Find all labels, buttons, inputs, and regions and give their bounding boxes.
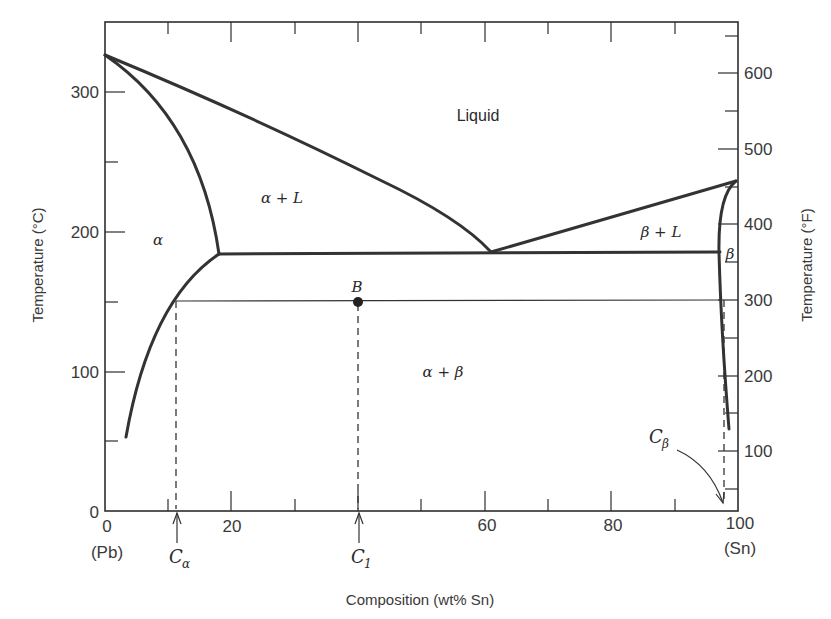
x-label-20: 20	[223, 517, 242, 536]
point-b-marker	[353, 297, 363, 307]
phase-boundaries	[105, 55, 736, 437]
point-b-label: B	[350, 278, 362, 296]
liquidus-left	[105, 55, 491, 252]
tie-line	[176, 300, 722, 301]
region-beta-plus-liquid: β + L	[640, 223, 682, 241]
x-label-60: 60	[478, 516, 497, 535]
c-alpha-subscript: α	[182, 557, 190, 571]
yf-label-300: 300	[744, 291, 772, 310]
solvus-alpha	[126, 254, 219, 437]
yf-label-100: 100	[744, 442, 772, 461]
liquidus-right	[491, 181, 736, 252]
yf-label-200: 200	[744, 367, 772, 386]
yf-label-600: 600	[744, 64, 772, 83]
x-label-100: 100	[726, 514, 754, 533]
x-end-sn: (Sn)	[724, 539, 756, 558]
c1-label: C	[351, 546, 365, 567]
x-end-pb: (Pb)	[91, 543, 123, 562]
y-label-200: 200	[71, 223, 99, 242]
region-alpha: α	[153, 231, 163, 249]
solvus-beta	[719, 181, 736, 429]
y-axis-right-title: Temperature (°F)	[798, 208, 815, 322]
region-alpha-plus-liquid: α + L	[261, 189, 303, 207]
eutectic-isotherm	[219, 252, 720, 254]
y-label-300: 300	[71, 83, 99, 102]
phase-diagram: 0 100 200 300 600 500 400 300 200 100 0 …	[0, 0, 831, 619]
bottom-ticks	[168, 491, 675, 511]
region-beta: β	[725, 245, 735, 263]
region-liquid: Liquid	[457, 107, 500, 124]
top-ticks	[168, 22, 675, 42]
left-ticks	[105, 92, 125, 441]
yf-label-400: 400	[744, 215, 772, 234]
composition-arrows	[173, 450, 724, 543]
y-label-0: 0	[90, 503, 99, 522]
c1-subscript: 1	[364, 557, 372, 571]
y-label-100: 100	[71, 363, 99, 382]
c-beta-subscript: β	[661, 437, 669, 451]
dashed-drops	[176, 300, 724, 509]
x-label-80: 80	[604, 516, 623, 535]
c-alpha-label: C	[169, 546, 183, 567]
x-axis-title: Composition (wt% Sn)	[346, 591, 494, 608]
region-alpha-plus-beta: α + β	[423, 363, 464, 381]
x-label-0: 0	[102, 517, 111, 536]
yf-label-500: 500	[744, 140, 772, 159]
y-axis-left-title: Temperature (°C)	[29, 207, 46, 322]
solidus-alpha	[105, 55, 219, 254]
c-beta-label: C	[649, 426, 663, 447]
